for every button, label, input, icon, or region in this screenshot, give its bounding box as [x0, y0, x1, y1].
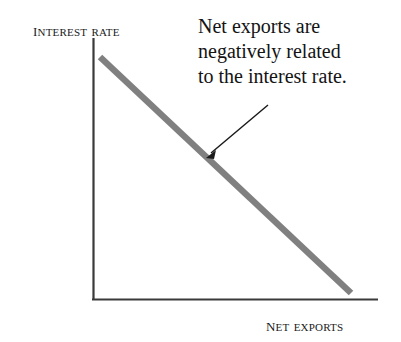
- annotation-line-1: Net exports are: [198, 14, 398, 39]
- y-axis-label: Interest rate: [33, 19, 120, 41]
- net-exports-curve: [100, 57, 351, 293]
- annotation-line-2: negatively related: [198, 39, 398, 64]
- x-axis-label: Net exports: [266, 314, 343, 336]
- annotation-leader-line: [211, 105, 268, 153]
- annotation-text: Net exports are negatively related to th…: [198, 14, 398, 89]
- net-exports-figure: Interest rate Net exports Net exports ar…: [0, 0, 401, 342]
- annotation-line-3: to the interest rate.: [198, 64, 398, 89]
